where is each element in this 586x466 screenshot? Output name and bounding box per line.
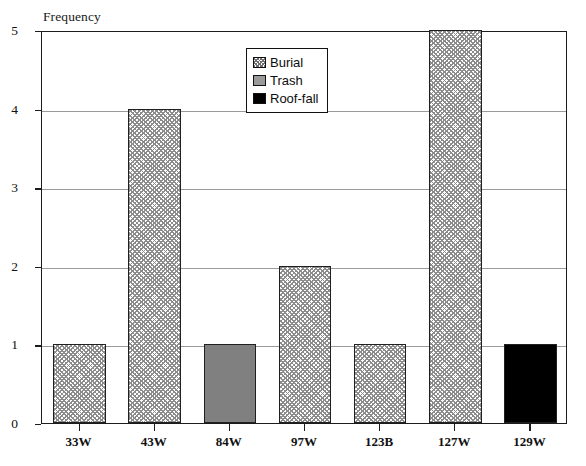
legend-label: Trash [270, 74, 303, 87]
legend-label: Burial [270, 56, 303, 69]
bar-chart: Frequency 012345 33W43W84W97W123B127W129… [0, 0, 586, 466]
bar-43W[interactable] [128, 109, 181, 423]
legend-label: Roof-fall [270, 92, 318, 105]
x-tick-123B [379, 424, 380, 431]
x-tick-43W [154, 424, 155, 431]
y-axis-title: Frequency [43, 9, 101, 25]
x-tick-129W [529, 424, 530, 431]
bar-127W[interactable] [429, 30, 482, 423]
bar-129W[interactable] [504, 344, 557, 423]
x-tick-label-123B: 123B [365, 434, 393, 450]
bar-123B[interactable] [354, 344, 407, 423]
legend: BurialTrashRoof-fall [246, 48, 328, 113]
x-tick-label-129W: 129W [513, 434, 546, 450]
x-tick-label-84W: 84W [216, 434, 242, 450]
x-tick-97W [304, 424, 305, 431]
y-tick-5 [35, 31, 41, 32]
y-tick-3 [35, 188, 41, 189]
legend-swatch-icon-hatch [253, 57, 266, 68]
x-tick-label-33W: 33W [66, 434, 92, 450]
y-tick-label-5: 5 [0, 23, 18, 39]
y-tick-1 [35, 345, 41, 346]
bar-97W[interactable] [279, 266, 332, 423]
bar-33W[interactable] [53, 344, 106, 423]
x-tick-84W [229, 424, 230, 431]
x-tick-label-97W: 97W [291, 434, 317, 450]
x-tick-127W [454, 424, 455, 431]
y-tick-label-0: 0 [0, 416, 18, 432]
y-tick-0 [35, 424, 41, 425]
legend-entry-burial[interactable]: Burial [253, 53, 318, 71]
bar-84W[interactable] [204, 344, 257, 423]
y-tick-label-3: 3 [0, 180, 18, 196]
legend-swatch-icon-gray [253, 75, 266, 86]
legend-swatch-icon-black [253, 93, 266, 104]
x-tick-label-43W: 43W [141, 434, 167, 450]
y-tick-label-4: 4 [0, 102, 18, 118]
y-tick-2 [35, 267, 41, 268]
y-tick-4 [35, 110, 41, 111]
y-tick-label-1: 1 [0, 337, 18, 353]
x-tick-33W [79, 424, 80, 431]
legend-entry-trash[interactable]: Trash [253, 71, 318, 89]
legend-entry-roof-fall[interactable]: Roof-fall [253, 89, 318, 107]
y-tick-label-2: 2 [0, 259, 18, 275]
x-tick-label-127W: 127W [438, 434, 471, 450]
